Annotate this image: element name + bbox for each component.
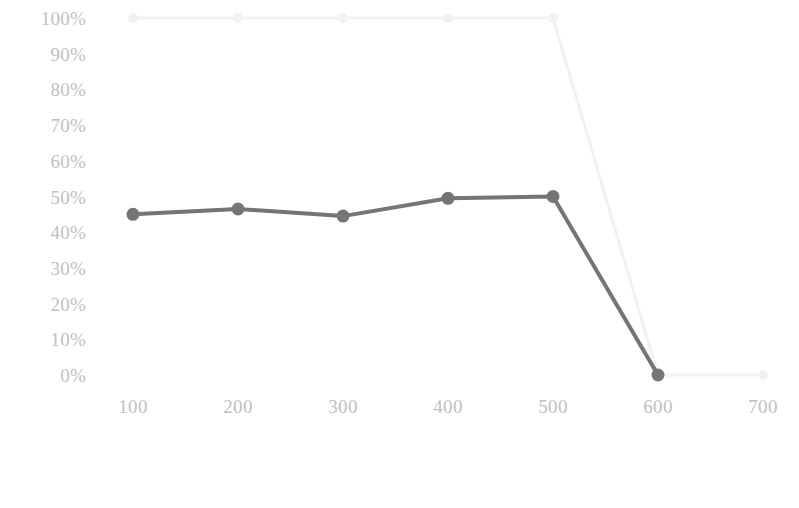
plot-area: 100%90%80%70%60%50%40%30%20%10%0% 100200… <box>0 0 799 425</box>
x-axis-tick-labels: 100200300400500600700 <box>0 385 799 425</box>
x-tick-label: 300 <box>328 397 358 416</box>
data-point-marker <box>758 370 768 380</box>
legend: The heat exchanger with conically conver… <box>0 430 799 508</box>
data-point-marker <box>548 13 558 23</box>
series-layer <box>0 0 799 425</box>
x-tick-label: 600 <box>643 397 673 416</box>
x-tick-label: 500 <box>538 397 568 416</box>
data-point-marker <box>652 369 665 382</box>
data-point-marker <box>127 208 140 221</box>
data-point-marker <box>337 210 350 223</box>
x-tick-label: 400 <box>433 397 463 416</box>
line-chart: 100%90%80%70%60%50%40%30%20%10%0% 100200… <box>0 0 799 508</box>
data-point-marker <box>232 203 245 216</box>
data-point-marker <box>547 190 560 203</box>
data-point-marker <box>233 13 243 23</box>
data-point-marker <box>442 192 455 205</box>
series-line-1 <box>133 197 658 376</box>
x-tick-label: 100 <box>118 397 148 416</box>
x-tick-label: 700 <box>748 397 778 416</box>
data-point-marker <box>128 13 138 23</box>
data-point-marker <box>338 13 348 23</box>
data-point-marker <box>443 13 453 23</box>
x-tick-label: 200 <box>223 397 253 416</box>
